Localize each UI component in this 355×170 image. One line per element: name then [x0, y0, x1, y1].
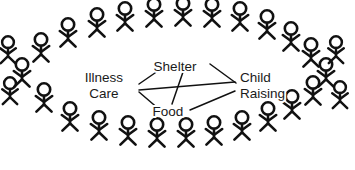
node-label-child-raising: Raising — [240, 86, 285, 101]
node-label-shelter: Shelter — [154, 59, 197, 74]
node-label-illness-care: Illness — [85, 70, 124, 85]
diagram-background — [0, 0, 355, 170]
node-label-illness-care: Care — [89, 86, 118, 101]
node-label-food: Food — [153, 104, 184, 119]
diagram-canvas: IllnessCareIllnessCareShelterShelterFood… — [0, 0, 355, 170]
stick-figure-network-diagram: IllnessCareIllnessCareShelterShelterFood… — [0, 0, 355, 170]
node-label-child-raising: Child — [240, 70, 271, 85]
